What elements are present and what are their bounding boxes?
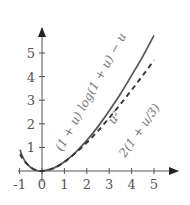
chart: -1012345 12345 (1 + u) log(1 + u) − u u²…: [0, 0, 190, 205]
y-tick-label: 4: [27, 70, 35, 85]
x-tick-label: -1: [13, 177, 26, 192]
dashed-curve-denominator-label: 2(1 + u/3): [115, 101, 163, 161]
y-tick-label: 1: [27, 140, 35, 155]
y-tick-label: 2: [27, 117, 35, 132]
x-ticks: -1012345: [13, 168, 158, 192]
y-tick-label: 3: [27, 93, 35, 108]
x-tick-label: 2: [83, 177, 91, 192]
x-tick-label: 5: [150, 177, 158, 192]
y-tick-label: 5: [27, 46, 35, 61]
x-tick-label: 1: [60, 177, 68, 192]
dashed-curve-numerator-label: u²: [105, 108, 124, 126]
x-tick-label: 4: [127, 177, 135, 192]
x-tick-label: 3: [105, 177, 113, 192]
x-tick-label: 0: [38, 177, 46, 192]
